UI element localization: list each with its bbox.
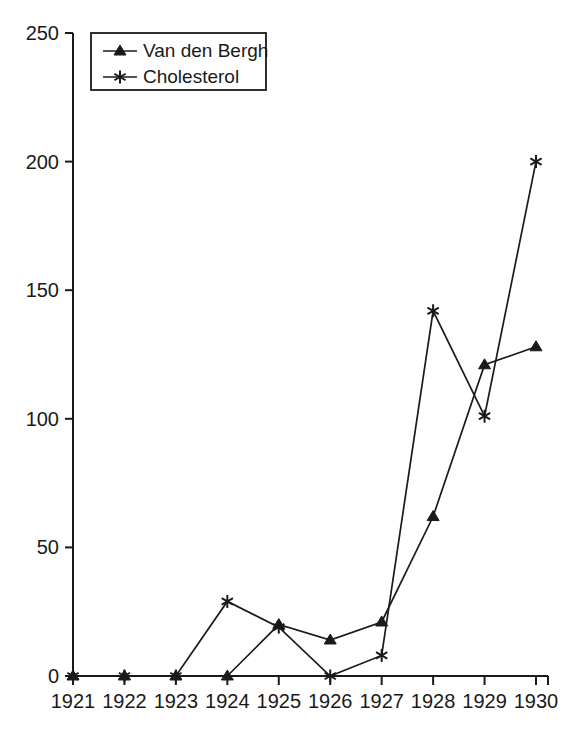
- triangle-marker-icon: [427, 511, 439, 521]
- chart-legend[interactable]: Van den BerghCholesterol: [91, 33, 268, 90]
- x-tick-label: 1930: [514, 690, 559, 712]
- data-point-marker: [376, 616, 388, 626]
- data-point-marker: [530, 341, 542, 351]
- data-point-marker: [427, 511, 439, 521]
- y-tick-label: 250: [26, 22, 59, 44]
- x-tick-label: 1923: [154, 690, 199, 712]
- triangle-marker-icon: [376, 616, 388, 626]
- triangle-marker-icon: [530, 341, 542, 351]
- y-tick-label: 0: [48, 665, 59, 687]
- x-tick-label: 1922: [102, 690, 147, 712]
- x-axis-ticks: 1921192219231924192519261927192819291930: [51, 676, 559, 712]
- legend-entry-label: Van den Bergh: [143, 40, 268, 61]
- legend-entry-label: Cholesterol: [143, 66, 239, 87]
- x-tick-label: 1928: [411, 690, 456, 712]
- y-tick-label: 50: [37, 536, 59, 558]
- x-tick-label: 1927: [359, 690, 404, 712]
- series-line-1: [73, 347, 536, 676]
- marker-layer: [67, 155, 542, 682]
- data-point-marker: [427, 304, 438, 317]
- x-tick-label: 1929: [462, 690, 507, 712]
- chart-canvas: 050100150200250 192119221923192419251926…: [0, 0, 579, 737]
- data-point-marker: [376, 649, 387, 662]
- x-tick-label: 1925: [257, 690, 302, 712]
- axes-group: [73, 33, 548, 676]
- x-tick-label: 1924: [205, 690, 250, 712]
- data-point-marker: [530, 155, 541, 168]
- y-tick-label: 150: [26, 279, 59, 301]
- y-tick-label: 100: [26, 408, 59, 430]
- x-tick-label: 1921: [51, 690, 96, 712]
- y-tick-label: 200: [26, 151, 59, 173]
- data-point-marker: [479, 410, 490, 423]
- y-axis-ticks: 050100150200250: [26, 22, 73, 687]
- line-chart-figure: 050100150200250 192119221923192419251926…: [0, 0, 579, 737]
- series-layer: [73, 162, 536, 676]
- x-tick-label: 1926: [308, 690, 353, 712]
